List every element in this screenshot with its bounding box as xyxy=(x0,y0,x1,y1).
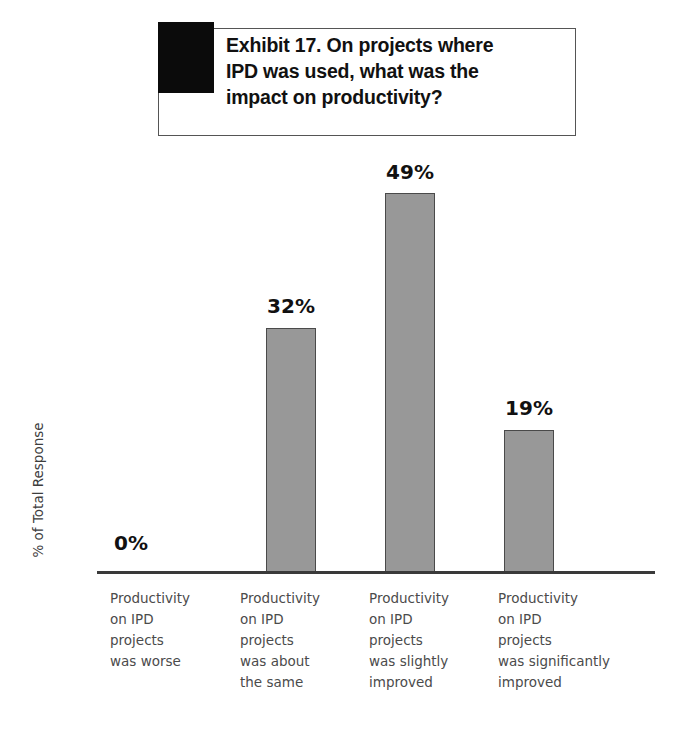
y-axis-label: % of Total Response xyxy=(30,400,46,580)
bar-value-2: 49% xyxy=(376,160,444,184)
bar-1 xyxy=(266,328,316,572)
x-axis-category-0: Productivity on IPD projects was worse xyxy=(110,588,228,672)
bar-3 xyxy=(504,430,554,572)
bar-value-0: 0% xyxy=(97,531,165,555)
x-axis-category-1: Productivity on IPD projects was about t… xyxy=(240,588,358,693)
x-axis-category-3: Productivity on IPD projects was signifi… xyxy=(498,588,648,693)
x-axis-line xyxy=(97,571,655,574)
bar-value-3: 19% xyxy=(495,396,563,420)
bar-2 xyxy=(385,193,435,572)
bar-value-1: 32% xyxy=(257,294,325,318)
bar-chart: % of Total Response 0% 32% 49% 19% Produ… xyxy=(0,0,693,738)
x-axis-category-2: Productivity on IPD projects was slightl… xyxy=(369,588,493,693)
